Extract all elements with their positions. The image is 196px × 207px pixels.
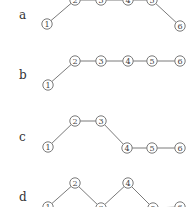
node-number: 3: [98, 117, 103, 126]
node-4: 4: [123, 56, 133, 66]
node-number: 3: [98, 57, 103, 66]
node-number: 5: [149, 0, 154, 5]
node-5: 5: [147, 56, 157, 66]
node-5: 5: [147, 0, 157, 5]
node-6: 6: [175, 21, 185, 31]
row-label: a: [19, 8, 26, 22]
row-label: b: [19, 68, 27, 82]
node-number: 2: [72, 0, 77, 5]
bond-edge: [51, 3, 71, 20]
chain-diagram: a123456b123456c123456d123456: [0, 0, 196, 207]
row-label: c: [19, 130, 26, 144]
node-number: 2: [72, 57, 77, 66]
node-6: 6: [175, 56, 185, 66]
node-number: 1: [45, 143, 50, 152]
node-number: 4: [125, 179, 130, 188]
node-1: 1: [43, 202, 53, 207]
node-number: 6: [177, 22, 182, 31]
bond-edge: [105, 125, 124, 145]
node-5: 5: [147, 143, 157, 153]
node-3: 3: [96, 203, 106, 207]
bond-edge: [79, 187, 98, 205]
node-number: 2: [72, 117, 77, 126]
node-6: 6: [175, 143, 185, 153]
node-3: 3: [96, 0, 106, 5]
node-4: 4: [123, 0, 133, 5]
node-4: 4: [122, 143, 132, 153]
node-number: 5: [149, 144, 154, 153]
node-2: 2: [70, 116, 80, 126]
node-number: 3: [98, 0, 103, 5]
bond-edge: [156, 4, 176, 23]
node-number: 4: [124, 144, 129, 153]
node-2: 2: [70, 178, 80, 188]
node-number: 5: [150, 204, 155, 207]
node-number: 3: [98, 204, 103, 207]
node-number: 4: [125, 57, 130, 66]
node-5: 5: [148, 203, 158, 207]
node-number: 5: [149, 57, 154, 66]
node-number: 6: [177, 144, 182, 153]
row-label: d: [19, 190, 27, 204]
bond-edge: [132, 187, 150, 205]
node-3: 3: [96, 116, 106, 126]
node-2: 2: [70, 0, 80, 5]
node-number: 2: [72, 179, 77, 188]
node-1: 1: [43, 142, 53, 152]
node-2: 2: [70, 56, 80, 66]
bond-edge: [52, 64, 71, 81]
bond-edge: [52, 125, 72, 144]
node-number: 6: [177, 57, 182, 66]
node-4: 4: [123, 178, 133, 188]
chain-row-d: d123456: [19, 178, 185, 207]
node-number: 4: [125, 0, 130, 5]
bond-edge: [105, 187, 124, 205]
node-1: 1: [43, 80, 53, 90]
node-number: 1: [44, 20, 49, 29]
node-3: 3: [96, 56, 106, 66]
node-6: 6: [175, 202, 185, 207]
node-number: 1: [45, 81, 50, 90]
chain-row-a: a123456: [19, 0, 185, 31]
chain-row-b: b123456: [19, 56, 185, 90]
chain-row-c: c123456: [19, 116, 185, 153]
node-number: 6: [177, 203, 182, 207]
bond-edge: [52, 186, 71, 203]
node-1: 1: [42, 19, 52, 29]
node-number: 1: [45, 203, 50, 207]
